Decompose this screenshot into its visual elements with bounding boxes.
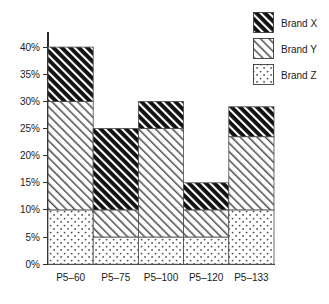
bar-group-p5-75[interactable] [93,129,138,265]
bar-segment-brand-y[interactable] [184,210,229,237]
x-tick-label-p5-120: P5–120 [189,272,224,283]
y-tick-label-10: 10% [20,204,40,215]
bar-segment-brand-x[interactable] [93,129,138,210]
y-tick-label-40: 40% [20,42,40,53]
y-tick-label-0: 0% [26,259,41,270]
legend-item-brand-y[interactable]: Brand Y [254,39,318,59]
chart-canvas: 40% 35% 30% 25% 20% 15% 10% 5% 0% [0,0,329,304]
y-axis-ticks [43,47,48,264]
x-tick-label-p5-60: P5–60 [56,272,85,283]
y-tick-label-30: 30% [20,96,40,107]
legend-label-brand-x: Brand X [281,18,317,29]
bar-group-p5-133[interactable] [229,107,274,264]
y-tick-label-35: 35% [20,69,40,80]
legend-swatch-brand-x [254,13,274,33]
bar-group-p5-60[interactable] [48,47,93,264]
bar-segment-brand-z[interactable] [48,210,93,264]
y-tick-label-5: 5% [26,232,41,243]
bar-segment-brand-x[interactable] [229,107,274,137]
chart-legend: Brand X Brand Y Brand Z [254,13,318,85]
bar-segment-brand-z[interactable] [184,237,229,264]
bar-group-p5-100[interactable] [138,101,183,264]
bar-segment-brand-z[interactable] [93,237,138,264]
bar-segment-brand-x[interactable] [184,183,229,210]
x-tick-label-p5-133: P5–133 [234,272,269,283]
x-tick-label-p5-75: P5–75 [101,272,130,283]
bar-group-p5-120[interactable] [184,183,229,264]
bar-segment-brand-y[interactable] [48,101,93,209]
legend-swatch-brand-y [254,39,274,59]
legend-item-brand-z[interactable]: Brand Z [254,65,317,85]
legend-label-brand-y: Brand Y [281,44,317,55]
stacked-bar-chart: 40% 35% 30% 25% 20% 15% 10% 5% 0% [0,0,329,304]
legend-label-brand-z: Brand Z [281,70,317,81]
x-axis-tick-labels: P5–60 P5–75 P5–100 P5–120 P5–133 [56,272,269,283]
y-tick-label-15: 15% [20,177,40,188]
bar-segment-brand-x[interactable] [48,47,93,101]
y-tick-label-25: 25% [20,123,40,134]
bar-segment-brand-y[interactable] [138,129,183,238]
x-tick-label-p5-100: P5–100 [144,272,179,283]
bar-segment-brand-z[interactable] [138,237,183,264]
bar-segment-brand-y[interactable] [229,137,274,210]
bar-segment-brand-x[interactable] [138,101,183,128]
y-axis-tick-labels: 40% 35% 30% 25% 20% 15% 10% 5% 0% [20,42,40,270]
bar-segment-brand-y[interactable] [93,210,138,237]
legend-item-brand-x[interactable]: Brand X [254,13,318,33]
legend-swatch-brand-z [254,65,274,85]
bar-segment-brand-z[interactable] [229,210,274,264]
y-tick-label-20: 20% [20,150,40,161]
